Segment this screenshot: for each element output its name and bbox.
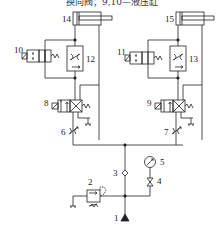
label-8: 8: [44, 98, 49, 108]
label-15: 15: [165, 14, 175, 24]
label-12: 12: [86, 54, 95, 64]
label-10: 10: [14, 45, 24, 55]
shutoff-valve-4: 4: [147, 176, 162, 186]
hydraulic-circuit-diagram: 14 12 10 8: [0, 0, 224, 228]
pump-source-1: 1: [114, 213, 129, 223]
relief-valve-2: 2: [87, 177, 106, 207]
label-6: 6: [61, 127, 66, 137]
cylinder-14: 14: [62, 12, 112, 25]
throttle-valve-6: 6: [61, 127, 78, 137]
label-14: 14: [62, 14, 72, 24]
solenoid-valve-10: 10: [14, 45, 59, 62]
cylinder-15: 15: [165, 12, 214, 25]
label-11: 11: [117, 47, 126, 57]
label-7: 7: [164, 127, 169, 137]
label-2: 2: [88, 177, 93, 187]
label-9: 9: [147, 98, 152, 108]
tank-icon: [188, 118, 194, 126]
label-4: 4: [157, 176, 162, 186]
check-valve-3: 3: [113, 168, 128, 178]
label-3: 3: [113, 168, 118, 178]
solenoid-valve-11: 11: [117, 47, 162, 64]
tank-icon: [85, 118, 91, 126]
label-13: 13: [189, 54, 199, 64]
directional-valve-9: 9: [147, 98, 193, 112]
directional-valve-8: 8: [44, 98, 90, 112]
throttle-valve-7: 7: [164, 127, 181, 137]
label-1: 1: [114, 213, 119, 223]
pressure-gauge-5: 5: [145, 157, 166, 168]
tank-icon: [70, 206, 76, 208]
label-5: 5: [160, 157, 165, 167]
flow-control-valve-12: 12: [67, 46, 95, 71]
flow-control-valve-13: 13: [170, 46, 199, 71]
